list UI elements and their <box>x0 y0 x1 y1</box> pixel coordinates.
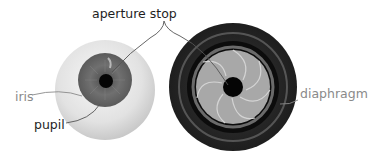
eye-figure <box>55 40 155 140</box>
lens-figure <box>169 23 297 151</box>
label-iris: iris <box>15 90 34 104</box>
label-pupil: pupil <box>34 118 65 132</box>
label-aperture-stop: aperture stop <box>92 7 177 21</box>
eye-pupil <box>99 74 113 88</box>
eye-vs-lens-diagram: aperture stop iris pupil diaphragm <box>0 0 375 151</box>
aperture-opening <box>223 77 243 97</box>
label-diaphragm: diaphragm <box>300 87 368 101</box>
